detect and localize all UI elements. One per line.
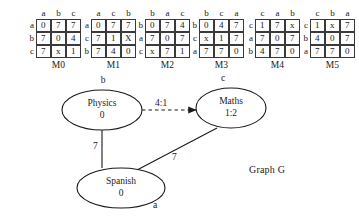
matrix-grid: b a c b 0 7 4 a 7 0 7 c x 7 1 <box>136 8 190 58</box>
matrix-cell: 0 <box>145 19 161 33</box>
node-spanish-name: Spanish <box>87 176 155 188</box>
matrix-cell: 7 <box>229 32 245 46</box>
matrix-cell: 7 <box>36 45 52 59</box>
edge-weight-physics-maths: 4:1 <box>155 98 167 109</box>
matrix-cell: 7 <box>270 45 286 59</box>
matrix-cell: 7 <box>285 32 301 46</box>
col-header: a <box>270 8 285 19</box>
node-maths-name: Maths <box>203 96 259 108</box>
graph-caption: Graph G <box>249 164 285 176</box>
matrix-cell: 1 <box>255 19 271 33</box>
matrix-cell: 7 <box>66 19 82 33</box>
matrix-cell: 0 <box>36 19 52 33</box>
col-header: a <box>160 8 175 19</box>
matrix-grid: c a b c 1 7 x a 7 0 7 b 4 7 0 <box>246 8 300 58</box>
edge-weight-physics-spanish: 7 <box>93 141 98 152</box>
matrix-grid: a b c a 0 7 7 b 7 0 4 c 7 x 1 <box>27 8 81 58</box>
matrix-cell: x <box>285 19 301 33</box>
col-header: c <box>175 8 190 19</box>
matrix-grid: b c a b 0 4 7 c x 1 7 a 7 7 0 <box>190 8 244 58</box>
matrix-cell: 7 <box>199 45 215 59</box>
matrix-cell: x <box>199 32 215 46</box>
col-header: a <box>36 8 51 19</box>
matrix-cell: x <box>145 45 161 59</box>
col-header: c <box>66 8 81 19</box>
col-header: c <box>310 8 325 19</box>
matrix-corner <box>301 8 310 19</box>
matrix-cell: 7 <box>255 32 271 46</box>
matrix-cell: 7 <box>160 19 176 33</box>
matrix-cell: 0 <box>199 19 215 33</box>
node-maths-key: c <box>215 73 231 84</box>
matrix-corner <box>136 8 145 19</box>
matrix-cell: 7 <box>106 19 122 33</box>
matrix-cell: 7 <box>91 32 107 46</box>
diagram-page: a b c a 0 7 7 b 7 0 4 c 7 x 1 M0 <box>0 0 359 218</box>
node-spanish-key: a <box>147 200 163 211</box>
node-spanish-value: 0 <box>87 188 155 200</box>
matrix-cell: 7 <box>229 19 245 33</box>
col-header: a <box>229 8 244 19</box>
matrix-cell: 7 <box>51 19 67 33</box>
matrix-cell: 4 <box>106 45 122 59</box>
col-header: b <box>325 8 340 19</box>
matrix-cell: 1 <box>214 32 230 46</box>
matrix-cell: 7 <box>340 32 356 46</box>
matrix-cell: 7 <box>340 19 356 33</box>
matrix-cell: 4 <box>310 32 326 46</box>
matrix-cell: 7 <box>91 45 107 59</box>
matrix-cell: 7 <box>175 32 191 46</box>
matrix-cell: 1 <box>106 32 122 46</box>
matrix-cell: X <box>121 32 137 46</box>
matrix-cell: x <box>325 19 341 33</box>
matrix-cell: 0 <box>229 45 245 59</box>
edge-spanish-maths <box>137 128 217 170</box>
matrix-cell: 7 <box>145 32 161 46</box>
col-header: c <box>106 8 121 19</box>
col-header: a <box>91 8 106 19</box>
matrix-cell: 7 <box>160 45 176 59</box>
matrix-corner <box>190 8 199 19</box>
matrix-cell: 0 <box>91 19 107 33</box>
matrix-cell: 0 <box>270 32 286 46</box>
matrix-corner <box>82 8 91 19</box>
matrix-cell: 0 <box>285 45 301 59</box>
col-header: c <box>255 8 270 19</box>
col-header: b <box>285 8 300 19</box>
col-header: c <box>214 8 229 19</box>
edge-weight-spanish-maths: 7 <box>172 152 177 163</box>
matrix-cell: 1 <box>175 45 191 59</box>
matrix-cell: 1 <box>66 45 82 59</box>
matrix-cell: 4 <box>214 19 230 33</box>
matrix-cell: 7 <box>121 19 137 33</box>
matrix-cell: 7 <box>214 45 230 59</box>
matrix-cell: 0 <box>325 32 341 46</box>
matrix-corner <box>27 8 36 19</box>
matrix-cell: 7 <box>325 45 341 59</box>
matrix-cell: 4 <box>175 19 191 33</box>
node-physics-key: b <box>95 75 111 86</box>
matrix-grid: a c b a 0 7 7 c 7 1 X b 7 4 0 <box>82 8 136 58</box>
matrix-cell: 0 <box>51 32 67 46</box>
matrix-cell: x <box>51 45 67 59</box>
matrix-cell: 0 <box>121 45 137 59</box>
node-physics-name: Physics <box>72 98 132 110</box>
graph-g: b c a Physics 0 Maths 1:2 Spanish 0 4:1 … <box>0 62 359 218</box>
matrix-cell: 4 <box>255 45 271 59</box>
col-header: b <box>145 8 160 19</box>
matrix-cell: 7 <box>270 19 286 33</box>
col-header: b <box>51 8 66 19</box>
col-header: b <box>121 8 136 19</box>
matrix-grid: c b a c 1 x 7 b 4 0 7 a 7 7 0 <box>301 8 355 58</box>
matrix-cell: 0 <box>340 45 356 59</box>
graph-canvas <box>0 62 359 218</box>
matrix-cell: 4 <box>66 32 82 46</box>
node-physics-value: 0 <box>72 110 132 122</box>
col-header: b <box>199 8 214 19</box>
matrix-cell: 7 <box>36 32 52 46</box>
col-header: a <box>340 8 355 19</box>
matrix-cell: 7 <box>310 45 326 59</box>
node-maths-value: 1:2 <box>203 108 259 120</box>
matrix-corner <box>246 8 255 19</box>
matrix-cell: 1 <box>310 19 326 33</box>
